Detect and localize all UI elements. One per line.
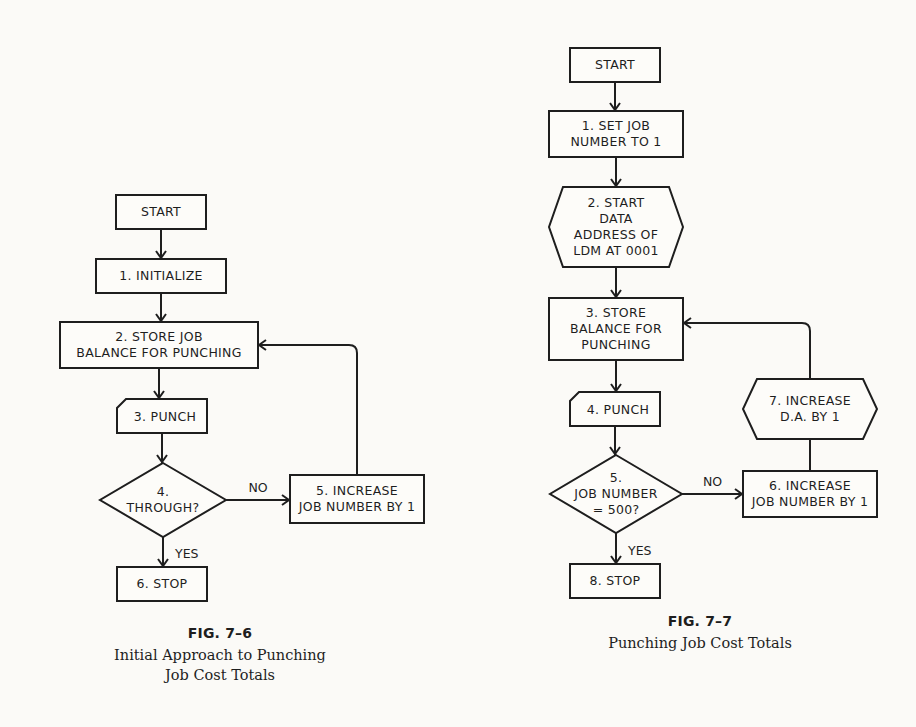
node-label: 3. PUNCH: [134, 409, 196, 424]
flowchart-node-n1: 1. INITIALIZE: [96, 259, 226, 293]
edge-label-no: NO: [703, 474, 722, 489]
flowchart-node-n5: 5. INCREASEJOB NUMBER BY 1: [290, 475, 424, 523]
figure-7-7-title-line1: Punching Job Cost Totals: [570, 633, 830, 653]
node-label: ADDRESS OF: [574, 227, 658, 242]
fig-7-6-flowchart: START1. INITIALIZE2. STORE JOBBALANCE FO…: [60, 195, 424, 601]
figure-7-6-number: FIG. 7–6: [90, 625, 350, 641]
flowchart-node-n7: 7. INCREASED.A. BY 1: [743, 379, 877, 439]
flowchart-node-n3: 3. STOREBALANCE FORPUNCHING: [549, 298, 683, 360]
edge-label-no: NO: [248, 480, 267, 495]
node-label: 5.: [610, 470, 623, 485]
edge-n7-to-n3: [683, 318, 810, 379]
node-label: 2. STORE JOB: [115, 329, 203, 344]
edge-n5-to-n8: YES: [611, 533, 652, 564]
flowchart-node-start: START: [570, 48, 660, 82]
edge-n5-to-n2: [258, 340, 357, 475]
fig-7-7-flowchart: START1. SET JOBNUMBER TO 12. STARTDATAAD…: [549, 48, 877, 598]
node-label: BALANCE FOR PUNCHING: [76, 345, 241, 360]
flowchart-node-n6: 6. INCREASEJOB NUMBER BY 1: [743, 471, 877, 517]
node-label: THROUGH?: [126, 500, 200, 515]
node-label: 1. SET JOB: [582, 118, 650, 133]
edge-n1-to-n2: [611, 157, 621, 187]
flowchart-node-n4: 4. PUNCH: [570, 392, 660, 426]
edge-n4-to-n5: [610, 426, 620, 455]
flowchart-node-n5: 5.JOB NUMBER= 500?: [550, 455, 682, 533]
edge-n3-to-n4: [157, 433, 167, 463]
node-label: NUMBER TO 1: [570, 134, 661, 149]
flowchart-node-n4: 4.THROUGH?: [100, 463, 226, 537]
edge-n4-to-n6: YES: [158, 537, 199, 567]
node-label: = 500?: [593, 502, 640, 517]
figure-7-6-title-line2: Job Cost Totals: [90, 665, 350, 685]
figure-7-7-caption: FIG. 7–7 Punching Job Cost Totals: [570, 613, 830, 653]
node-label: START: [595, 57, 635, 72]
node-label: JOB NUMBER BY 1: [298, 499, 415, 514]
flowchart-node-n6: 6. STOP: [117, 567, 207, 601]
edge-n1-to-n2: [156, 293, 166, 322]
node-label: DATA: [599, 211, 633, 226]
edge-n4-to-n5: NO: [226, 480, 290, 505]
node-label: 3. STORE: [586, 305, 646, 320]
figure-7-7-title: Punching Job Cost Totals: [570, 633, 830, 653]
node-label: 1. INITIALIZE: [119, 268, 203, 283]
flowchart-node-n1: 1. SET JOBNUMBER TO 1: [549, 111, 683, 157]
figure-7-6-caption: FIG. 7–6 Initial Approach to Punching Jo…: [90, 625, 350, 685]
node-label: PUNCHING: [581, 337, 650, 352]
flowchart-node-n2: 2. STARTDATAADDRESS OFLDM AT 0001: [549, 187, 683, 267]
edge-n2-to-n3: [611, 267, 621, 298]
node-label: 6. INCREASE: [769, 478, 851, 493]
node-label: LDM AT 0001: [573, 243, 659, 258]
edge-n2-to-n3: [154, 368, 164, 399]
edge-n5-to-n6: NO: [682, 474, 743, 499]
flowchart-node-n2: 2. STORE JOBBALANCE FOR PUNCHING: [60, 322, 258, 368]
node-label: JOB NUMBER BY 1: [751, 494, 868, 509]
node-label: 6. STOP: [137, 576, 188, 591]
node-label: 2. START: [588, 195, 645, 210]
figure-7-6-title-line1: Initial Approach to Punching: [90, 645, 350, 665]
node-label: 8. STOP: [590, 573, 641, 588]
flowchart-node-n3: 3. PUNCH: [117, 399, 207, 433]
figure-7-6-title: Initial Approach to Punching Job Cost To…: [90, 645, 350, 685]
node-label: 7. INCREASE: [769, 393, 851, 408]
edge-label-yes: YES: [174, 546, 199, 561]
edge-label-yes: YES: [627, 543, 652, 558]
node-label: JOB NUMBER: [573, 486, 658, 501]
node-label: START: [141, 204, 181, 219]
node-label: D.A. BY 1: [780, 409, 840, 424]
edge-n3-to-n4: [611, 360, 621, 392]
node-label: BALANCE FOR: [570, 321, 662, 336]
edge-start-to-n1: [156, 229, 166, 259]
node-label: 4. PUNCH: [587, 402, 649, 417]
figure-7-7-number: FIG. 7–7: [570, 613, 830, 629]
flowchart-node-start: START: [116, 195, 206, 229]
edge-start-to-n1: [610, 82, 620, 111]
node-label: 5. INCREASE: [316, 483, 398, 498]
node-label: 4.: [157, 484, 170, 499]
flowchart-node-n8: 8. STOP: [570, 564, 660, 598]
